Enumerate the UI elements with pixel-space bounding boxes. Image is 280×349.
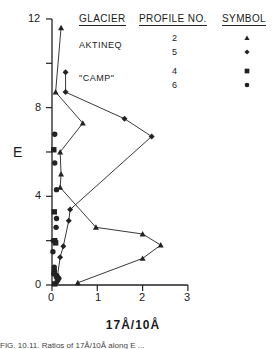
y-tick-0: 0 [35,278,41,290]
circle-marker [52,265,57,270]
square-marker [245,69,250,74]
legend-header-profile: PROFILE NO. [139,13,207,26]
circle-marker [52,132,57,137]
legend-profile-4: 4 [172,66,178,76]
circle-marker [245,83,250,88]
diamond-marker [244,49,249,54]
x-tick-1: 1 [95,291,101,303]
x-axis-label: 17Å/10Å [78,318,188,332]
series-line [57,72,152,283]
diamond-marker [57,254,63,260]
circle-marker [54,216,59,221]
x-tick-2: 2 [139,291,145,303]
triangle-marker [58,25,64,30]
y-tick-4: 4 [35,189,41,201]
x-tick-3: 3 [184,291,190,303]
legend-header-symbol: SYMBOL [222,13,266,26]
circle-marker [50,249,55,254]
triangle-marker [140,255,146,260]
legend-header-glacier: GLACIER [79,13,126,26]
triangle-marker [53,89,59,94]
diamond-marker [63,89,69,95]
triangle-marker [75,280,81,285]
circle-marker [51,238,56,243]
triangle-marker [58,171,64,176]
legend-profile-2: 2 [172,33,178,43]
square-marker [52,281,57,286]
series-line [56,28,161,283]
square-marker [52,209,57,214]
legend-glacier-aktineq: AKTINEQ [79,40,122,50]
y-tick-8: 8 [35,101,41,113]
circle-marker [52,160,57,165]
diamond-marker [121,116,127,122]
diamond-marker [63,69,69,75]
legend-glacier-camp: "CAMP" [79,73,114,83]
circle-marker [53,225,58,230]
diamond-marker [66,218,72,224]
circle-marker [54,187,59,192]
legend-profile-6: 6 [172,80,178,90]
diamond-marker [60,243,66,249]
circle-marker [56,276,61,281]
triangle-marker [244,35,249,40]
y-tick-12: 12 [28,12,40,24]
y-axis-label: E [13,144,22,160]
triangle-marker [158,242,164,247]
x-tick-0: 0 [48,291,54,303]
legend-profile-5: 5 [172,47,178,57]
circle-marker [51,271,56,276]
square-marker [51,147,56,152]
figure-caption: FIG. 10.11. Ratios of 17Å/10Å along E ..… [0,341,280,349]
